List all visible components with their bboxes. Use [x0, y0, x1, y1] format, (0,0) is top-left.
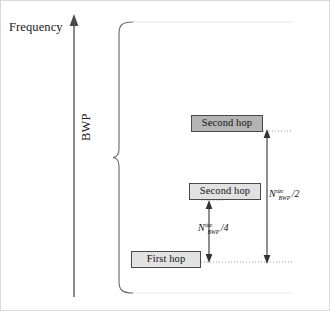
dimension-label-quarter: NsizeBWP/4	[198, 223, 228, 233]
dimension-quarter-symbol: N	[198, 222, 205, 233]
frequency-hopping-diagram: Frequency BWP Second hop Second hop Firs…	[0, 0, 330, 311]
frequency-axis-arrowhead	[70, 14, 79, 26]
dimension-quarter-divisor: /4	[221, 222, 229, 233]
first-hop-block: First hop	[131, 251, 201, 268]
bwp-brace	[113, 22, 133, 293]
dimension-arrow-half-head-down	[264, 255, 271, 264]
dimension-half-superscript: size	[276, 188, 284, 194]
dimension-half-subscript: BWP	[279, 195, 291, 201]
frequency-axis	[70, 14, 79, 297]
dimension-half-divisor: /2	[292, 188, 300, 199]
dimension-arrow-quarter-head-down	[206, 254, 213, 263]
dimension-quarter-subscript: BWP	[208, 229, 220, 235]
dimension-label-half: NsizeBWP/2	[269, 189, 299, 199]
dimension-arrow-quarter-head-up	[206, 200, 213, 209]
second-hop-block-mid: Second hop	[189, 183, 261, 200]
second-hop-block-top: Second hop	[191, 115, 263, 132]
bwp-brace-path	[113, 22, 133, 293]
dimension-quarter-superscript: size	[205, 222, 213, 228]
frequency-axis-label: Frequency	[9, 20, 63, 35]
dimension-half-symbol: N	[269, 188, 276, 199]
dimension-arrow-half-head-up	[264, 129, 271, 138]
bwp-label: BWP	[79, 113, 94, 141]
